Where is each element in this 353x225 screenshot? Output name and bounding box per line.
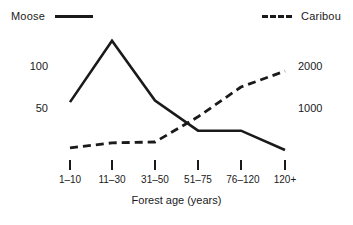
series-line-moose — [70, 41, 285, 150]
x-category-label-3: 51–75 — [184, 174, 212, 186]
x-category-label-5: 120+ — [274, 174, 297, 186]
x-category-label-4: 76–120 — [226, 174, 259, 186]
x-category-label-2: 31–50 — [141, 174, 169, 186]
x-category-label-0: 1–10 — [59, 174, 81, 186]
x-category-label-1: 11–30 — [98, 174, 125, 186]
x-axis-ticks — [70, 160, 285, 170]
x-axis-title: Forest age (years) — [0, 194, 353, 207]
plot-area — [0, 0, 353, 225]
line-chart: Moose Caribou 100 50 2000 1000 1–10 11–3… — [0, 0, 353, 225]
